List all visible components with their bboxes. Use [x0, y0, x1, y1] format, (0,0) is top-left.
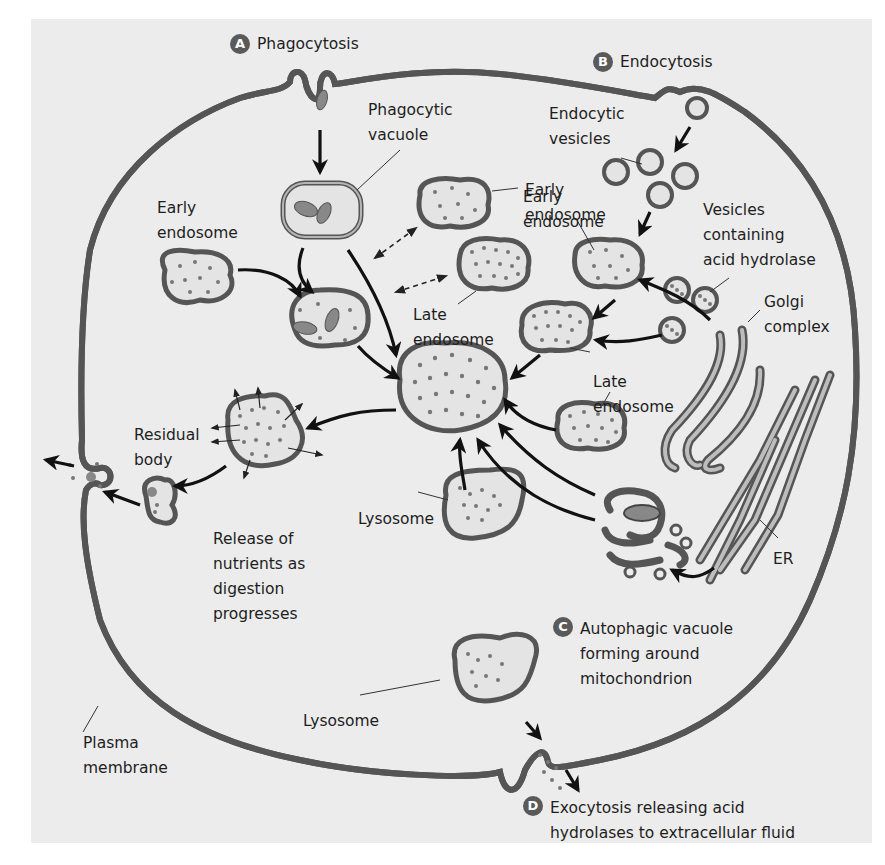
- lysosome-middle-label: Lysosome: [358, 507, 434, 532]
- plasma-membrane-label: Plasma membrane: [83, 731, 168, 781]
- late-endosome-right: [521, 303, 591, 351]
- lysosome-bottom-label: Lysosome: [303, 709, 379, 734]
- late-endosome-right-label: Late endosome: [593, 370, 674, 420]
- hydrolase-vesicles: [660, 278, 717, 342]
- late-endosome-center: [459, 239, 529, 290]
- central-lysosome: [399, 342, 505, 430]
- step-a-label: APhagocytosis: [230, 32, 359, 57]
- step-c-label: CAutophagic vacuole forming around mitoc…: [553, 617, 733, 692]
- er-label: ER: [773, 547, 794, 572]
- early-endosome-center: [419, 179, 489, 227]
- digesting-lysosome: [212, 388, 322, 478]
- badge-b: B: [593, 52, 613, 72]
- badge-c: C: [553, 617, 573, 637]
- lysosome-bottom: [454, 634, 536, 701]
- vesicles-acid-hydrolase-label: Vesicles containing acid hydrolase: [703, 198, 816, 273]
- badge-a: A: [230, 34, 250, 54]
- residual-body: [145, 478, 176, 523]
- early-endosome-right: [575, 239, 643, 287]
- mitochondrion-icon: [624, 505, 660, 521]
- exchange-arrows: [375, 228, 446, 292]
- badge-d: D: [523, 796, 543, 816]
- step-b-label: BEndocytosis: [593, 50, 713, 75]
- phagocytic-vacuole: [283, 183, 361, 237]
- early-endosome-left: [162, 250, 232, 302]
- step-d-label: DExocytosis releasing acid hydrolases to…: [523, 796, 795, 846]
- late-endosome-center-label: Late endosome: [413, 303, 494, 353]
- early-endosome-left-label: Early endosome: [157, 196, 238, 246]
- golgi-complex-label: Golgi complex: [764, 290, 830, 340]
- phagocytic-vacuole-label: Phagocytic vacuole: [368, 98, 453, 148]
- phagolysosome: [292, 290, 368, 346]
- early-endosome-right-label: Early endosome: [523, 185, 604, 235]
- endocytic-vesicles-label: Endocytic vesicles: [549, 102, 625, 152]
- golgi-complex: [665, 330, 760, 470]
- release-of-nutrients-label: Release of nutrients as digestion progre…: [213, 527, 305, 627]
- residual-body-label: Residual body: [134, 423, 199, 473]
